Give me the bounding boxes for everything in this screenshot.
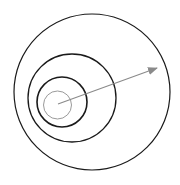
- concentric-circles-diagram: [0, 0, 180, 185]
- radius-arrow: [58, 68, 157, 104]
- second-circle: [28, 54, 116, 142]
- inner-circle: [44, 91, 72, 119]
